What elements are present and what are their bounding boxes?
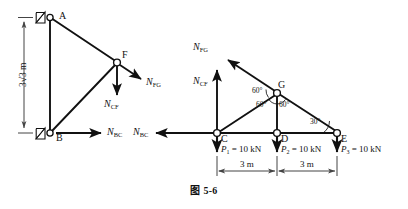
force-label-NCF-right: NCF xyxy=(193,76,208,86)
force-label-NBC-right: NBC xyxy=(133,127,148,137)
force-label-NCF-left: NCF xyxy=(104,99,119,109)
joint-C xyxy=(214,130,221,137)
support-pin-A xyxy=(36,12,45,23)
truss-diagram-canvas xyxy=(0,0,408,209)
joint-A xyxy=(47,14,53,20)
load-label-P2: P2 = 10 kN xyxy=(281,145,321,154)
angle-label-g-mid-left: 60° xyxy=(256,101,267,109)
figure-container: A B F 3√3 m NFG NCF NBC NFG NCF NBC C D … xyxy=(0,0,408,209)
node-label-A: A xyxy=(59,11,66,21)
node-label-D: D xyxy=(281,134,288,144)
node-label-F: F xyxy=(122,50,128,60)
arc-angle-g-left xyxy=(266,90,269,98)
force-label-NBC-left: NBC xyxy=(107,127,122,137)
figure-caption: 图 5-6 xyxy=(0,186,408,196)
load-label-P3: P3 = 10 kN xyxy=(341,145,381,154)
node-label-B: B xyxy=(56,133,63,143)
left-fbd-members xyxy=(50,18,117,133)
angle-label-e: 30° xyxy=(310,118,321,126)
angle-label-g-left: 60° xyxy=(252,87,263,95)
member-CG xyxy=(219,94,277,132)
vertical-dimension-label: 3√3 m xyxy=(19,45,29,105)
angle-label-g-mid-right: 60° xyxy=(279,101,290,109)
force-label-NFG-left: NFG xyxy=(146,77,161,87)
dimension-label-cd: 3 m xyxy=(217,160,277,169)
node-label-C: C xyxy=(221,134,228,144)
joint-E xyxy=(334,130,341,137)
support-pin-B xyxy=(36,128,45,139)
right-fbd-members xyxy=(217,94,337,133)
joint-D xyxy=(274,130,281,137)
force-label-NFG-right: NFG xyxy=(193,42,208,52)
node-label-G: G xyxy=(278,80,285,90)
member-AF xyxy=(51,18,117,62)
joint-F xyxy=(114,59,121,66)
joint-G xyxy=(274,90,281,97)
node-label-E: E xyxy=(341,134,347,144)
load-label-P1: P1 = 10 kN xyxy=(221,145,261,154)
joint-B xyxy=(47,130,53,136)
force-arrow-NFG-left xyxy=(120,65,141,79)
dimension-label-de: 3 m xyxy=(277,160,337,169)
